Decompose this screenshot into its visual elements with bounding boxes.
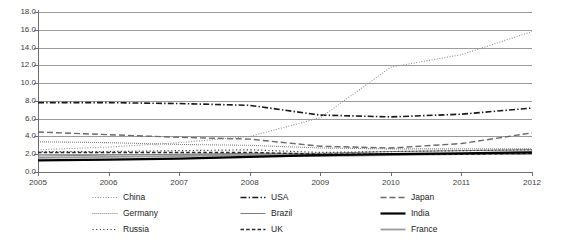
legend-swatch-france-icon	[380, 225, 406, 234]
legend-item-brazil[interactable]: Brazil	[240, 206, 292, 221]
legend-swatch-usa-icon	[240, 193, 266, 202]
y-tick-label: 10.0	[4, 79, 36, 87]
y-tick-label: 0.0	[4, 168, 36, 176]
line-chart: 18.016.014.012.010.08.06.04.02.00.0 2005…	[0, 0, 570, 244]
legend-swatch-russia-icon	[92, 225, 118, 234]
y-tick-label: 18.0	[4, 8, 36, 16]
legend-row: RussiaUKFrance	[92, 222, 532, 237]
legend-swatch-uk-icon	[240, 225, 266, 234]
legend-label: UK	[271, 225, 283, 234]
legend-item-russia[interactable]: Russia	[92, 222, 149, 237]
series-line-japan	[38, 132, 532, 148]
x-tick-label: 2005	[18, 178, 58, 187]
y-tick-label: 12.0	[4, 61, 36, 69]
legend-swatch-germany-icon	[92, 209, 118, 218]
x-tick-mark	[461, 172, 462, 176]
x-tick-mark	[391, 172, 392, 176]
x-tick-label: 2007	[159, 178, 199, 187]
x-tick-label: 2009	[300, 178, 340, 187]
legend-label: India	[411, 209, 429, 218]
legend-label: Germany	[123, 209, 158, 218]
legend-label: Russia	[123, 225, 149, 234]
legend-label: China	[123, 193, 145, 202]
legend-row: ChinaUSAJapan	[92, 190, 532, 205]
legend-label: France	[411, 225, 437, 234]
x-tick-mark	[109, 172, 110, 176]
x-tick-mark	[250, 172, 251, 176]
legend-item-china[interactable]: China	[92, 190, 145, 205]
y-tick-label: 14.0	[4, 44, 36, 52]
y-tick-label: 2.0	[4, 150, 36, 158]
legend-swatch-india-icon	[380, 209, 406, 218]
x-axis-line	[38, 172, 532, 173]
chart-legend: ChinaUSAJapanGermanyBrazilIndiaRussiaUKF…	[92, 190, 532, 238]
x-tick-label: 2010	[371, 178, 411, 187]
legend-label: Japan	[411, 193, 434, 202]
legend-item-germany[interactable]: Germany	[92, 206, 158, 221]
legend-item-japan[interactable]: Japan	[380, 190, 434, 205]
x-tick-label: 2012	[512, 178, 552, 187]
x-tick-mark	[179, 172, 180, 176]
x-tick-mark	[38, 172, 39, 176]
x-tick-label: 2006	[89, 178, 129, 187]
x-tick-label: 2011	[441, 178, 481, 187]
y-tick-label: 16.0	[4, 26, 36, 34]
legend-row: GermanyBrazilIndia	[92, 206, 532, 221]
y-tick-label: 4.0	[4, 132, 36, 140]
x-tick-label: 2008	[230, 178, 270, 187]
legend-item-france[interactable]: France	[380, 222, 437, 237]
legend-swatch-china-icon	[92, 193, 118, 202]
legend-label: USA	[271, 193, 288, 202]
legend-item-usa[interactable]: USA	[240, 190, 288, 205]
series-lines	[38, 12, 532, 172]
series-line-china	[38, 32, 532, 150]
y-tick-label: 6.0	[4, 115, 36, 123]
legend-label: Brazil	[271, 209, 292, 218]
legend-swatch-japan-icon	[380, 193, 406, 202]
x-tick-mark	[532, 172, 533, 176]
y-tick-label: 8.0	[4, 97, 36, 105]
legend-item-india[interactable]: India	[380, 206, 429, 221]
x-tick-mark	[320, 172, 321, 176]
chart-title	[0, 0, 570, 5]
series-line-usa	[38, 103, 532, 117]
legend-swatch-brazil-icon	[240, 209, 266, 218]
legend-item-uk[interactable]: UK	[240, 222, 283, 237]
